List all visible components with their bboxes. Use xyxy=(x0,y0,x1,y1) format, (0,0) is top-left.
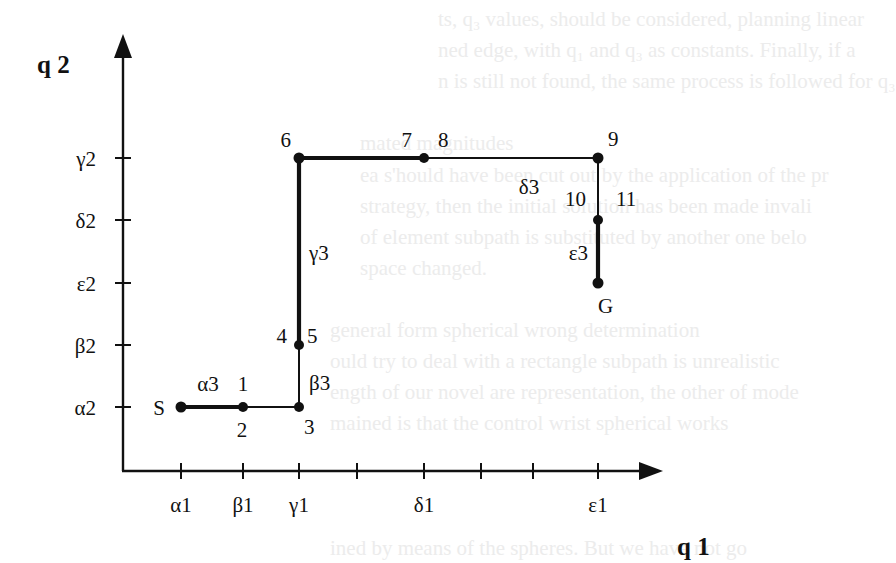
path-labels: α3β3γ3δ3ε3S1234567891011G xyxy=(153,127,636,442)
x-tick-label: α1 xyxy=(170,493,192,517)
node-label: 7 xyxy=(402,128,413,152)
node-label: 11 xyxy=(616,187,636,211)
node-label: G xyxy=(598,294,613,318)
axis-ticks: α1β1γ1δ1ε1α2β2ε2δ2γ2 xyxy=(74,147,607,517)
segment-label: α3 xyxy=(197,372,219,396)
segment-label: ε3 xyxy=(569,241,588,265)
path-node xyxy=(593,215,603,225)
node-label: 10 xyxy=(565,187,586,211)
segment-label: δ3 xyxy=(519,175,539,199)
segment-label: β3 xyxy=(309,371,330,395)
node-label: 6 xyxy=(281,128,292,152)
x-tick-label: δ1 xyxy=(414,493,434,517)
x-tick-label: β1 xyxy=(232,493,253,517)
path-node xyxy=(238,402,248,412)
y-tick-label: δ2 xyxy=(76,209,96,233)
node-label: 8 xyxy=(438,128,449,152)
y-axis-arrow-icon xyxy=(114,34,132,58)
path-node xyxy=(593,278,604,289)
node-label: S xyxy=(153,396,165,420)
y-tick-label: α2 xyxy=(74,396,96,420)
x-tick-label: γ1 xyxy=(288,493,309,517)
segment-label: γ3 xyxy=(308,241,329,265)
path-node xyxy=(294,340,304,350)
y-tick-label: ε2 xyxy=(77,272,96,296)
x-axis-title: q 1 xyxy=(677,533,710,560)
node-label: 1 xyxy=(238,372,249,396)
y-tick-label: γ2 xyxy=(75,147,96,171)
node-label: 2 xyxy=(237,418,248,442)
node-label: 5 xyxy=(307,324,318,348)
path-node xyxy=(294,402,304,412)
y-axis-title: q 2 xyxy=(37,51,70,78)
path-node xyxy=(176,402,187,413)
x-axis-arrow-icon xyxy=(639,462,663,480)
path-node xyxy=(593,153,604,164)
node-label: 3 xyxy=(304,415,315,439)
node-label: 9 xyxy=(608,127,619,151)
path-node xyxy=(294,153,305,164)
path-node xyxy=(419,153,429,163)
x-tick-label: ε1 xyxy=(588,493,607,517)
node-label: 4 xyxy=(277,324,288,348)
y-tick-label: β2 xyxy=(75,334,96,358)
